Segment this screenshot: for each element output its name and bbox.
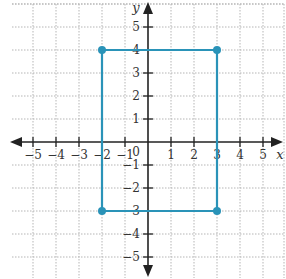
x-tick-label: −5	[24, 148, 42, 162]
vertex-point	[98, 207, 106, 215]
x-tick-label: 1	[167, 148, 175, 162]
y-tick-label: 5	[132, 20, 140, 34]
x-tick-label: 4	[236, 148, 244, 162]
x-axis-arrow-right-icon	[271, 137, 283, 147]
rectangle-outline	[102, 50, 217, 211]
y-tick-label: −1	[122, 158, 140, 172]
y-axis-arrow-down-icon	[143, 265, 153, 277]
x-tick-label: −4	[47, 148, 65, 162]
coordinate-plane: −5−4−3−2−112345−5−4−3−2−1123450xy	[0, 0, 286, 279]
y-axis-label: y	[131, 0, 140, 15]
vertex-point	[213, 207, 221, 215]
y-tick-label: −4	[122, 227, 140, 241]
x-axis-arrow-left-icon	[10, 137, 22, 147]
origin-label: 0	[132, 145, 140, 159]
rectangle-shape	[98, 46, 221, 215]
x-tick-label: 5	[259, 148, 267, 162]
vertex-point	[213, 46, 221, 54]
y-tick-label: −2	[122, 181, 140, 195]
y-tick-label: 2	[132, 89, 140, 103]
axes	[10, 2, 283, 277]
y-tick-label: −5	[122, 250, 140, 264]
x-axis-label: x	[276, 147, 284, 162]
x-tick-label: 2	[190, 148, 198, 162]
y-tick-label: 1	[132, 112, 140, 126]
y-tick-label: 3	[132, 66, 140, 80]
tick-labels: −5−4−3−2−112345−5−4−3−2−1123450xy	[24, 0, 284, 264]
x-tick-label: −3	[70, 148, 88, 162]
vertex-point	[98, 46, 106, 54]
